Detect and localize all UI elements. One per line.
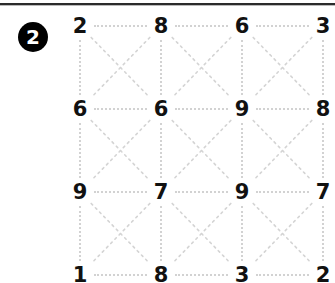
grid-digit-r2-c4[interactable]: 8 <box>310 97 335 121</box>
grid-digit-r3-c1[interactable]: 9 <box>67 180 93 204</box>
grid-digit-r1-c2[interactable]: 8 <box>148 14 174 38</box>
grid-digit-r4-c2[interactable]: 8 <box>148 263 174 283</box>
problem-number-badge: 2 <box>18 22 48 52</box>
grid-digit-r4-c3[interactable]: 3 <box>229 263 255 283</box>
grid-digit-r3-c4[interactable]: 7 <box>310 180 335 204</box>
grid-digit-r3-c3[interactable]: 9 <box>229 180 255 204</box>
grid-digit-r2-c3[interactable]: 9 <box>229 97 255 121</box>
grid-digit-r1-c3[interactable]: 6 <box>229 14 255 38</box>
grid-digit-r4-c4[interactable]: 2 <box>310 263 335 283</box>
grid-digit-r3-c2[interactable]: 7 <box>148 180 174 204</box>
grid-digit-r1-c4[interactable]: 3 <box>310 14 335 38</box>
diagonal-connectors <box>80 26 323 275</box>
grid-digit-r1-c1[interactable]: 2 <box>67 14 93 38</box>
worksheet-page: 2 2863669897971832 <box>0 0 335 283</box>
grid-digit-r4-c1[interactable]: 1 <box>67 263 93 283</box>
top-divider-shadow <box>0 5 335 6</box>
number-grid: 2863669897971832 <box>80 26 323 275</box>
grid-digit-r2-c1[interactable]: 6 <box>67 97 93 121</box>
grid-digit-r2-c2[interactable]: 6 <box>148 97 174 121</box>
